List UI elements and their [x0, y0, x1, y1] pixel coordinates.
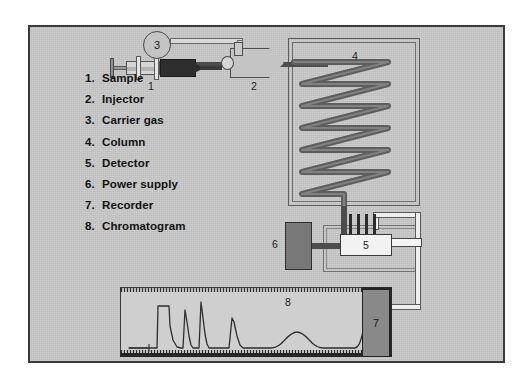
detector-prong [349, 214, 352, 236]
list-item: 5. Detector [85, 157, 275, 169]
legend-number: 4. [85, 136, 102, 148]
diagram-canvas: 1. Sample 2. Injector 3. Carrier gas 4. … [0, 0, 532, 389]
list-item: 6. Power supply [85, 178, 275, 190]
legend-number: 1. [85, 72, 102, 84]
power-supply-block [285, 222, 312, 270]
recorder-block: 7 [362, 289, 390, 357]
injector-nut [234, 42, 243, 56]
legend-list: 1. Sample 2. Injector 3. Carrier gas 4. … [85, 72, 275, 242]
list-item: 4. Column [85, 136, 275, 148]
syringe-needle [200, 66, 222, 70]
list-item: 2. Injector [85, 93, 275, 105]
list-item: 1. Sample [85, 72, 275, 84]
legend-label: Detector [102, 157, 149, 169]
list-item: 8. Chromatogram [85, 220, 275, 232]
callout-sample: 1 [148, 80, 154, 92]
list-item: 7. Recorder [85, 199, 275, 211]
legend-number: 8. [85, 220, 102, 232]
detector-prong [373, 214, 376, 236]
legend-number: 7. [85, 199, 102, 211]
legend-label: Column [102, 136, 145, 148]
column-coil [288, 38, 420, 206]
legend-number: 6. [85, 178, 102, 190]
recorder-frame-bottom [120, 353, 392, 357]
signal-line-top [373, 212, 421, 218]
power-supply-cable [311, 243, 343, 249]
callout-carrier-gas: 3 [154, 39, 160, 51]
signal-line-down [415, 212, 421, 310]
chromatogram-trace [121, 288, 371, 356]
detector-prong [357, 214, 360, 236]
detector-body: 5 [340, 234, 392, 256]
injector-septum [221, 56, 234, 70]
legend-number: 5. [85, 157, 102, 169]
legend-number: 2. [85, 93, 102, 105]
legend-number: 3. [85, 114, 102, 126]
callout-recorder: 7 [373, 317, 379, 329]
callout-injector: 2 [251, 80, 257, 92]
callout-detector: 5 [363, 239, 369, 251]
legend-label: Sample [102, 72, 144, 84]
legend-label: Chromatogram [102, 220, 186, 232]
callout-chromatogram: 8 [285, 296, 291, 308]
list-item: 3. Carrier gas [85, 114, 275, 126]
legend-label: Recorder [102, 199, 153, 211]
carrier-gas-line-horizontal [170, 38, 243, 44]
legend-label: Carrier gas [102, 114, 164, 126]
signal-line-to-recorder [388, 304, 421, 310]
detector-prong [365, 214, 368, 236]
carrier-gas-source: 3 [143, 31, 171, 59]
detector-outlet-tube [390, 238, 422, 247]
legend-label: Injector [102, 93, 144, 105]
callout-power-supply: 6 [272, 238, 278, 250]
legend-label: Power supply [102, 178, 178, 190]
callout-column: 4 [352, 50, 358, 62]
chromatogram-paper [120, 287, 370, 355]
